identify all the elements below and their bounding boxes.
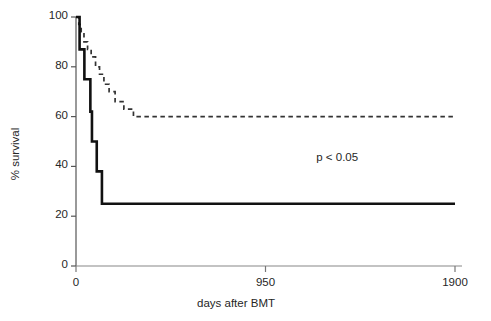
y-tick-label: 60 <box>16 109 68 121</box>
p-value-annotation: p < 0.05 <box>316 151 358 163</box>
survival-chart: 020406080100 09501900 % survival days af… <box>0 0 491 321</box>
y-tick-label: 80 <box>16 59 68 71</box>
x-tick-label: 0 <box>46 276 106 288</box>
y-axis-title: % survival <box>9 118 21 190</box>
y-tick-label: 100 <box>16 9 68 21</box>
plot-area <box>0 0 491 321</box>
x-axis-ticks <box>76 266 455 272</box>
x-tick-label: 950 <box>236 276 296 288</box>
solid-survival-curve <box>76 17 455 204</box>
x-tick-label: 1900 <box>425 276 485 288</box>
y-tick-label: 20 <box>16 208 68 220</box>
y-axis-ticks <box>71 17 76 266</box>
y-tick-label: 0 <box>16 258 68 270</box>
x-axis-title: days after BMT <box>146 297 326 309</box>
dashed-survival-curve <box>76 17 455 117</box>
y-tick-label: 40 <box>16 158 68 170</box>
